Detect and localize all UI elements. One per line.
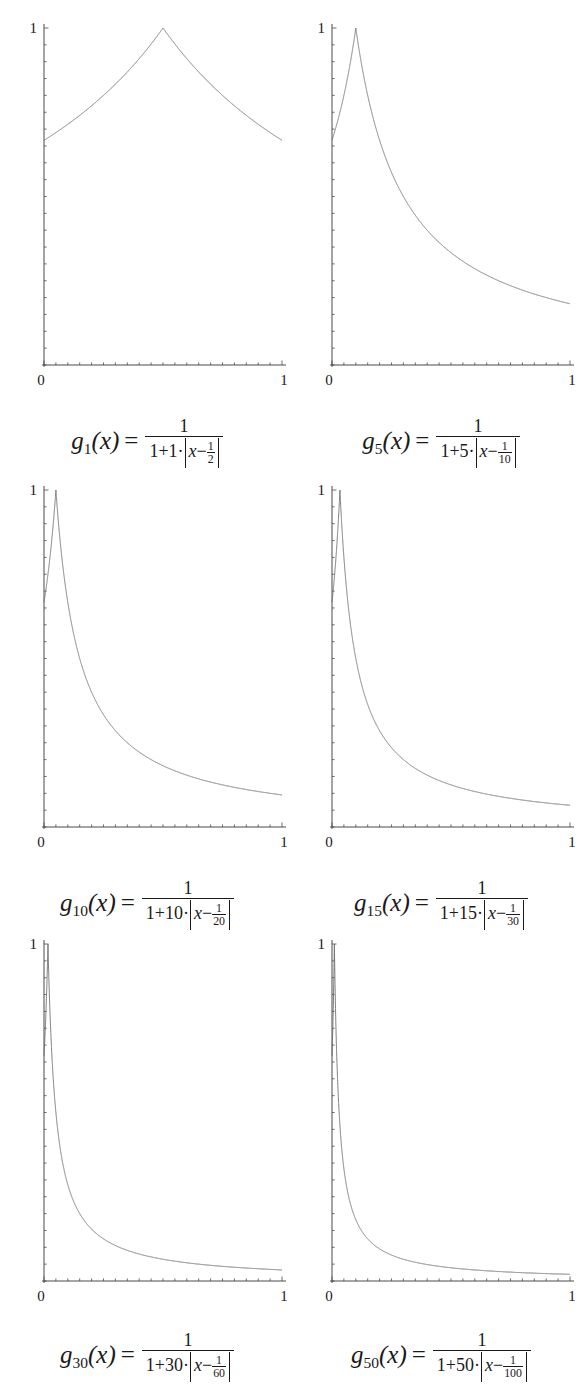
formula-g1-name: g xyxy=(71,427,84,454)
plot-svg-g50: 011 xyxy=(308,928,582,1308)
plot-g10: 011 xyxy=(20,474,294,854)
plot-svg-g1: 011 xyxy=(20,12,294,392)
x-axis-label-1: 1 xyxy=(280,372,288,388)
formula-g5-numerator: 1 xyxy=(436,417,519,436)
plot-svg-g15: 011 xyxy=(308,474,582,854)
panel-g15: 011 g15(x)=11+15·x−130 xyxy=(294,464,588,948)
plot-g1: 011 xyxy=(20,12,294,392)
x-axis-label-1: 1 xyxy=(568,372,576,388)
plot-g5: 011 xyxy=(308,12,582,392)
formula-g50-den-minus: − xyxy=(493,1355,503,1375)
x-axis-label-1: 1 xyxy=(568,1288,576,1304)
y-axis-label-1: 1 xyxy=(30,482,38,498)
formula-g10-subscript: 10 xyxy=(72,902,88,919)
y-axis-label-1: 1 xyxy=(30,20,38,36)
plot-svg-g10: 011 xyxy=(20,474,294,854)
formula-g50-den-var: x xyxy=(485,1355,493,1375)
x-axis-label-0: 0 xyxy=(325,834,333,850)
formula-g5-equals: = xyxy=(415,427,429,454)
formula-g30-numerator: 1 xyxy=(142,1331,234,1350)
formula-g50-inner-fraction: 1100 xyxy=(503,1354,523,1380)
formula-g1-fraction: 11+1·x−12 xyxy=(145,417,222,468)
x-axis-label-1: 1 xyxy=(280,1288,288,1304)
formula-g30-den-lead: 1+30· xyxy=(146,1355,189,1375)
panel-g10: 011 g10(x)=11+10·x−120 xyxy=(0,464,294,948)
formula-g5-inner-num: 1 xyxy=(498,440,512,452)
formula-g10-inner-num: 1 xyxy=(212,902,226,914)
formula-g30-den-minus: − xyxy=(202,1355,212,1375)
caption-g1: g1(x)=11+1·x−12 xyxy=(0,418,294,469)
formula-g5-fraction: 11+5·x−110 xyxy=(436,417,519,468)
formula-g1-arg: (x) xyxy=(92,427,120,454)
formula-g50-den-lead: 1+50· xyxy=(437,1355,480,1375)
formula-g1-subscript: 1 xyxy=(84,440,92,457)
formula-g30-subscript: 30 xyxy=(72,1354,88,1371)
plot-g50: 011 xyxy=(308,928,582,1308)
plot-svg-g30: 011 xyxy=(20,928,294,1308)
formula-g30-den-var: x xyxy=(194,1355,202,1375)
formula-g5-den-lead: 1+5· xyxy=(440,441,474,461)
caption-g50: g50(x)=11+50·x−1100 xyxy=(294,1332,588,1383)
formula-g50-fraction: 11+50·x−1100 xyxy=(433,1331,531,1382)
formula-g5-inner-fraction: 110 xyxy=(498,440,512,466)
panel-g1: 011 g1(x)=11+1·x−12 xyxy=(0,0,294,484)
formula-g50: g50(x)=11+50·x−1100 xyxy=(351,1332,531,1383)
y-axis-label-1: 1 xyxy=(30,936,38,952)
formula-g1-inner-fraction: 12 xyxy=(207,440,215,466)
formula-g50-equals: = xyxy=(412,1341,426,1368)
plot-g30: 011 xyxy=(20,928,294,1308)
formula-g15-inner-num: 1 xyxy=(506,902,520,914)
formula-g1: g1(x)=11+1·x−12 xyxy=(71,418,222,469)
formula-g1-equals: = xyxy=(124,427,138,454)
x-axis-label-1: 1 xyxy=(280,834,288,850)
formula-g5: g5(x)=11+5·x−110 xyxy=(362,418,519,469)
formula-g30-name: g xyxy=(60,1341,73,1368)
formula-g50-absolute: x−1100 xyxy=(481,1352,527,1382)
formula-g5-arg: (x) xyxy=(383,427,411,454)
formula-g50-numerator: 1 xyxy=(433,1331,531,1350)
formula-g30-inner-den: 60 xyxy=(212,1366,226,1379)
formula-g5-den-var: x xyxy=(480,441,488,461)
y-axis-label-1: 1 xyxy=(318,20,326,36)
x-axis-label-0: 0 xyxy=(37,834,45,850)
formula-g30-fraction: 11+30·x−160 xyxy=(142,1331,234,1382)
formula-g15-subscript: 15 xyxy=(366,902,382,919)
formula-g30-arg: (x) xyxy=(88,1341,116,1368)
formula-g1-den-var: x xyxy=(189,441,197,461)
formula-g1-inner-num: 1 xyxy=(207,440,215,452)
formula-g50-arg: (x) xyxy=(379,1341,407,1368)
formula-g10-numerator: 1 xyxy=(142,879,234,898)
plot-svg-g5: 011 xyxy=(308,12,582,392)
formula-g15-numerator: 1 xyxy=(436,879,528,898)
formula-g30-equals: = xyxy=(121,1341,135,1368)
figure-grid: 011 g1(x)=11+1·x−12 011 g5(x)=11+5·x−110… xyxy=(0,0,588,1391)
formula-g30-absolute: x−160 xyxy=(190,1352,230,1382)
x-axis-label-0: 0 xyxy=(325,372,333,388)
formula-g5-den-minus: − xyxy=(488,441,498,461)
y-axis-label-1: 1 xyxy=(318,482,326,498)
formula-g1-den-lead: 1+1· xyxy=(149,441,183,461)
formula-g15-name: g xyxy=(354,889,367,916)
formula-g30-inner-num: 1 xyxy=(212,1354,226,1366)
formula-g10-name: g xyxy=(60,889,73,916)
caption-g30: g30(x)=11+30·x−160 xyxy=(0,1332,294,1383)
x-axis-label-1: 1 xyxy=(568,834,576,850)
formula-g50-subscript: 50 xyxy=(364,1354,380,1371)
x-axis-label-0: 0 xyxy=(37,372,45,388)
formula-g30: g30(x)=11+30·x−160 xyxy=(60,1332,234,1383)
formula-g30-denominator: 1+30·x−160 xyxy=(142,1350,234,1382)
x-axis-label-0: 0 xyxy=(325,1288,333,1304)
formula-g30-inner-fraction: 160 xyxy=(212,1354,226,1380)
formula-g1-numerator: 1 xyxy=(145,417,222,436)
formula-g50-inner-num: 1 xyxy=(503,1354,523,1366)
x-axis-label-0: 0 xyxy=(37,1288,45,1304)
panel-g30: 011 g30(x)=11+30·x−160 xyxy=(0,920,294,1391)
formula-g5-subscript: 5 xyxy=(375,440,383,457)
formula-g50-denominator: 1+50·x−1100 xyxy=(433,1350,531,1382)
formula-g50-name: g xyxy=(351,1341,364,1368)
y-axis-label-1: 1 xyxy=(318,936,326,952)
formula-g10-equals: = xyxy=(121,889,135,916)
formula-g10-arg: (x) xyxy=(88,889,116,916)
plot-g15: 011 xyxy=(308,474,582,854)
panel-g50: 011 g50(x)=11+50·x−1100 xyxy=(294,920,588,1391)
